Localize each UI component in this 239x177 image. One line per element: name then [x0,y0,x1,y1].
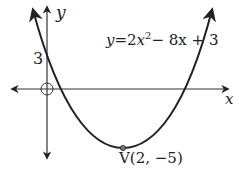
y-axis-label: y [56,4,66,21]
vertex-label: V(2, −5) [119,151,183,166]
parabola-figure: y 3 x y=2x2− 8x + 3 V(2, −5) [0,0,239,177]
x-axis-label: x [225,92,233,107]
equation-label: y=2x2− 8x + 3 [106,31,218,48]
y-intercept-label: 3 [33,51,43,67]
